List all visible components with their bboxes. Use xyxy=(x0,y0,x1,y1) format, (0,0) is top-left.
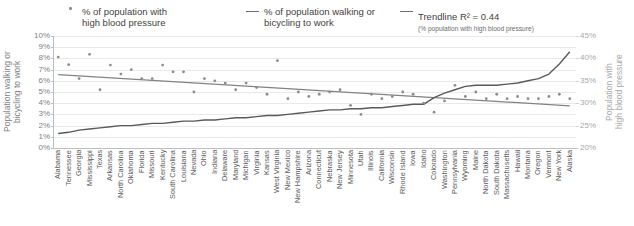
scatter-point xyxy=(380,97,383,100)
x-axis-label: South Carolina xyxy=(169,150,177,222)
x-axis-label: Missouri xyxy=(148,150,156,222)
x-axis-label: Nebraska xyxy=(326,150,334,222)
left-axis-tick-label: 1% xyxy=(22,133,50,141)
x-axis-label: Rhode Island xyxy=(399,150,407,222)
scatter-point xyxy=(568,97,571,100)
scatter-point xyxy=(193,91,196,94)
trendline xyxy=(58,75,570,106)
left-axis-tick-label: 2% xyxy=(22,122,50,130)
tick-mark xyxy=(576,103,579,104)
x-axis-label: California xyxy=(378,150,386,222)
x-axis-label: Nevada xyxy=(190,150,198,222)
x-axis-label: Georgia xyxy=(75,150,83,222)
chart-legend: % of population with high blood pressure… xyxy=(0,2,634,28)
x-axis-label: Maryland xyxy=(232,150,240,222)
left-axis-tick-label: 6% xyxy=(22,77,50,85)
x-axis-label: Montana xyxy=(524,150,532,222)
left-axis-tick-label: 3% xyxy=(22,110,50,118)
scatter-point xyxy=(245,82,248,85)
x-axis-label: New Mexico xyxy=(284,150,292,222)
scatter-point xyxy=(203,77,206,80)
scatter-point xyxy=(140,77,143,80)
x-axis-label: Florida xyxy=(138,150,146,222)
left-axis-tick-label: 9% xyxy=(22,43,50,51)
x-axis-label: South Dakota xyxy=(493,150,501,222)
x-axis-label: North Dakota xyxy=(482,150,490,222)
x-axis-label: Arkansas xyxy=(106,150,114,222)
x-axis-label: Texas xyxy=(96,150,104,222)
scatter-point xyxy=(558,93,561,96)
x-axis-label: Alaska xyxy=(566,150,574,222)
x-axis-label: Utah xyxy=(357,150,365,222)
series-overlay xyxy=(53,36,575,148)
tick-mark xyxy=(51,148,54,149)
scatter-point xyxy=(297,91,300,94)
scatter-point xyxy=(537,97,540,100)
left-axis-tick-label: 0% xyxy=(22,144,50,152)
scatter-point xyxy=(182,70,185,73)
x-axis-label: Alabama xyxy=(54,150,62,222)
x-axis-label: Oklahoma xyxy=(127,150,135,222)
scatter-point xyxy=(109,64,112,67)
legend-item-blood-pressure[interactable]: % of population with high blood pressure xyxy=(64,6,167,28)
x-axis-label: Hawaii xyxy=(514,150,522,222)
x-axis-label: New Jersey xyxy=(336,150,344,222)
tick-mark xyxy=(576,81,579,82)
scatter-point xyxy=(151,77,154,80)
x-axis-label: Kentucky xyxy=(159,150,167,222)
scatter-point xyxy=(339,88,342,91)
chart-container: % of population with high blood pressure… xyxy=(0,0,634,226)
x-axis-labels: AlabamaTennesseeGeorgiaMississippiTexasA… xyxy=(53,150,575,224)
scatter-point xyxy=(172,70,175,73)
x-axis-label: Arizona xyxy=(305,150,313,222)
scatter-point xyxy=(318,93,321,96)
right-axis-tick-label: 20% xyxy=(580,144,604,152)
scatter-point xyxy=(224,82,227,85)
scatter-point xyxy=(422,102,425,105)
x-axis-label: New Hampshire xyxy=(294,150,302,222)
left-axis-tick-label: 8% xyxy=(22,54,50,62)
scatter-point xyxy=(485,97,488,100)
left-axis-tick-label: 10% xyxy=(22,32,50,40)
left-axis-tick-label: 4% xyxy=(22,99,50,107)
x-axis-label: West Virginia xyxy=(273,150,281,222)
x-axis-label: Ohio xyxy=(200,150,208,222)
left-axis-tick-label: 7% xyxy=(22,66,50,74)
scatter-point xyxy=(548,95,551,98)
scatter-point xyxy=(234,88,237,91)
legend-item-trendline[interactable]: Trendline R² = 0.44 (% population with h… xyxy=(400,6,534,33)
scatter-point xyxy=(213,79,216,82)
x-axis-label: Colorado xyxy=(430,150,438,222)
x-axis-label: Virginia xyxy=(253,150,261,222)
x-axis-label: Wisconsin xyxy=(388,150,396,222)
x-axis-label: North Carolina xyxy=(117,150,125,222)
scatter-point xyxy=(433,111,436,114)
scatter-point xyxy=(119,73,122,76)
scatter-point xyxy=(474,91,477,94)
scatter-point xyxy=(99,88,102,91)
x-axis-label: Oregon xyxy=(534,150,542,222)
right-axis-tick-label: 25% xyxy=(580,122,604,130)
x-axis-label: Iowa xyxy=(409,150,417,222)
scatter-point xyxy=(527,97,530,100)
tick-mark xyxy=(576,36,579,37)
scatter-point xyxy=(464,95,467,98)
scatter-point xyxy=(516,95,519,98)
scatter-point xyxy=(412,93,415,96)
right-axis-tick-label: 40% xyxy=(580,54,604,62)
left-axis-title: Population walking or bicycling to work xyxy=(2,40,22,144)
legend-item-walking-bicycling[interactable]: % of population walking or bicycling to … xyxy=(246,6,375,28)
x-axis-label: Connecticut xyxy=(315,150,323,222)
x-axis-label: Michigan xyxy=(242,150,250,222)
scatter-point xyxy=(88,53,91,56)
x-axis-label: Washington xyxy=(441,150,449,222)
right-axis-tick-label: 30% xyxy=(580,99,604,107)
x-axis-label: Wyoming xyxy=(461,150,469,222)
scatter-point xyxy=(391,95,394,98)
scatter-point xyxy=(360,113,363,116)
right-axis-tick-label: 45% xyxy=(580,32,604,40)
x-axis-label: Vermont xyxy=(545,150,553,222)
scatter-point xyxy=(276,59,279,62)
tick-mark xyxy=(576,148,579,149)
scatter-point xyxy=(349,104,352,107)
